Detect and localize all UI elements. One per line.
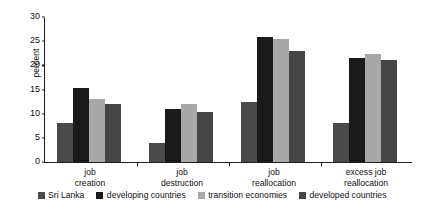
y-axis-tick-label: 20 — [30, 59, 40, 70]
legend-label: developing countries — [107, 190, 186, 200]
x-axis-category-label: jobdestruction — [136, 167, 228, 189]
legend-swatch — [299, 192, 306, 199]
bar — [257, 37, 273, 162]
x-axis-category-label: jobcreation — [44, 167, 136, 189]
bar — [197, 112, 213, 162]
bar-group-bars — [57, 88, 125, 162]
bar — [381, 60, 397, 162]
legend-item[interactable]: Sri Lanka — [38, 190, 85, 200]
plot-area: 051015202530 — [44, 18, 412, 163]
bar — [333, 123, 349, 162]
legend-swatch — [96, 192, 103, 199]
legend-swatch — [198, 192, 205, 199]
x-axis-separator-tick — [137, 162, 138, 166]
y-axis-tick-label: 10 — [30, 107, 40, 118]
x-axis-category-label-line: job — [44, 167, 136, 178]
legend-label: Sri Lanka — [48, 190, 84, 200]
legend-item[interactable]: developed countries — [299, 190, 386, 200]
chart-legend: Sri Lankadeveloping countriestransition … — [0, 190, 424, 200]
y-axis-tick-label: 0 — [35, 156, 40, 167]
x-axis-category-label-line: job — [228, 167, 320, 178]
y-axis-tick-label: 15 — [30, 83, 40, 94]
bar — [105, 104, 121, 162]
x-axis-category-label-line: creation — [44, 178, 136, 189]
bar-group — [321, 18, 413, 162]
y-axis-tick-label: 25 — [30, 35, 40, 46]
x-axis-category-label-line: excess job — [320, 167, 412, 178]
x-axis-category-label-line: destruction — [136, 178, 228, 189]
bar — [165, 109, 181, 162]
legend-label: developed countries — [310, 190, 387, 200]
bar — [89, 99, 105, 162]
bar-group-bars — [241, 37, 309, 162]
x-axis-separator-tick — [321, 162, 322, 166]
legend-item[interactable]: developing countries — [96, 190, 185, 200]
bar-group — [45, 18, 137, 162]
bar-group-bars — [333, 54, 401, 162]
bar — [57, 123, 73, 162]
x-axis-category-label-line: reallocation — [320, 178, 412, 189]
legend-swatch — [38, 192, 45, 199]
bar-group-bars — [149, 104, 217, 162]
x-axis-separator-tick — [229, 162, 230, 166]
x-axis-category-label-line: job — [136, 167, 228, 178]
legend-label: transition economies — [208, 190, 287, 200]
bar — [349, 58, 365, 162]
bar — [365, 54, 381, 162]
bar-group — [137, 18, 229, 162]
legend-item[interactable]: transition economies — [198, 190, 287, 200]
y-axis-tick-label: 30 — [30, 11, 40, 22]
x-axis-category-label: jobreallocation — [228, 167, 320, 189]
bar — [181, 104, 197, 162]
bar — [73, 88, 89, 162]
y-axis-tick-label: 5 — [35, 131, 40, 142]
x-axis-category-label: excess jobreallocation — [320, 167, 412, 189]
bar-group — [229, 18, 321, 162]
bar — [241, 102, 257, 162]
bar-chart: percent 051015202530 jobcreationjobdestr… — [0, 0, 424, 212]
bar — [289, 51, 305, 162]
x-axis-category-label-line: reallocation — [228, 178, 320, 189]
bar — [149, 143, 165, 162]
bar — [273, 39, 289, 162]
